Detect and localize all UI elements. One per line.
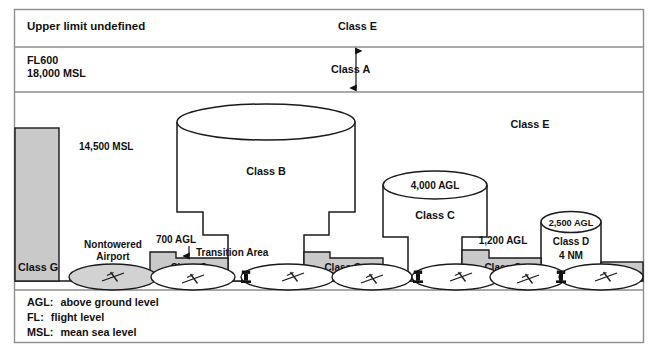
- airport-nontowered: [69, 264, 157, 290]
- airport-class-c-primary: [412, 264, 500, 290]
- legend-abbr-0: AGL:: [27, 296, 53, 308]
- airport-class-d-primary: [556, 264, 643, 290]
- altitude-1200-agl-label: 1,200 AGL: [479, 235, 528, 246]
- class-b-top-ellipse: [177, 104, 355, 140]
- legend-definition-2: mean sea level: [60, 326, 136, 338]
- legend-abbr-2: MSL:: [27, 326, 53, 338]
- msl18000-label: 18,000 MSL: [27, 67, 86, 79]
- transition-area-label: Transition Area: [196, 247, 269, 258]
- fl600-label: FL600: [27, 54, 58, 66]
- class-b-label: Class B: [246, 165, 286, 177]
- airport-class-b-primary: [241, 264, 335, 290]
- upper-limit-label: Upper limit undefined: [27, 20, 145, 32]
- class-g-column-left: Class G: [15, 128, 59, 281]
- altitude-700-agl-label: 700 AGL: [156, 234, 196, 245]
- altitude-14500-msl-label: 14,500 MSL: [79, 141, 133, 152]
- class-g-label-left: Class G: [18, 261, 58, 273]
- nontowered-airport-label-line2: Airport: [96, 251, 130, 262]
- airport-under-class-b-left: [151, 264, 235, 290]
- class-e-upper-label: Class E: [338, 20, 377, 32]
- legend-row-2: MSL: mean sea level: [27, 326, 137, 338]
- altitude-4000-agl-label: 4,000 AGL: [411, 180, 460, 191]
- legend-definition-1: flight level: [51, 311, 104, 323]
- class-c-label: Class C: [415, 209, 455, 221]
- class-a-label: Class A: [331, 63, 370, 75]
- legend-definition-0: above ground level: [60, 296, 158, 308]
- altitude-2500-agl-label: 2,500 AGL: [549, 218, 594, 228]
- nontowered-airport-label-line1: Nontowered: [84, 239, 142, 250]
- legend-row-0: AGL: above ground level: [27, 296, 159, 308]
- airport-under-class-d-left: [490, 264, 566, 290]
- class-d-label: Class D: [553, 236, 590, 247]
- class-d-radius-label: 4 NM: [559, 250, 583, 261]
- class-e-middle-label: Class E: [510, 118, 549, 130]
- diagram-canvas: Upper limit undefined Class E FL600 18,0…: [0, 0, 658, 360]
- legend-abbr-1: FL:: [27, 311, 44, 323]
- airport-under-class-c-left: [332, 264, 412, 290]
- airspace-diagram-figure: Upper limit undefined Class E FL600 18,0…: [0, 0, 658, 360]
- legend-row-1: FL: flight level: [27, 311, 104, 323]
